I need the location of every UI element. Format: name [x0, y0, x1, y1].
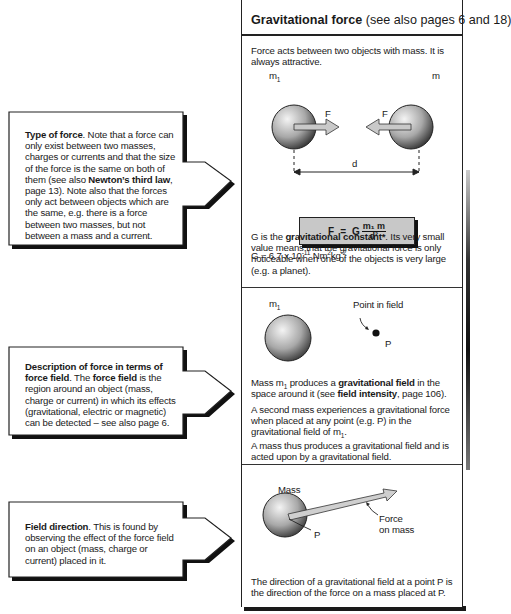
- field-para-2: A second mass experiences a gravitationa…: [251, 404, 456, 438]
- point-label: P: [314, 529, 320, 540]
- force-pointer-icon: [367, 504, 378, 515]
- field-direction-diagram: [242, 465, 464, 565]
- gravitational-constant-text: G is the gravitational constant*. Its ve…: [251, 231, 456, 276]
- mass-sphere: [265, 315, 311, 361]
- mass-2-label: m: [432, 70, 440, 81]
- force-label-right: F: [382, 108, 388, 119]
- section-field-direction: Mass P Force on mass The direction of a …: [242, 465, 462, 607]
- intro-text: Force acts between two objects with mass…: [251, 45, 456, 67]
- force-label-left: F: [325, 108, 331, 119]
- callout-term: Newton’s third law: [88, 174, 170, 185]
- mass-1-label: m1: [269, 70, 280, 81]
- field-para-1: Mass m1 produces a gravitational field i…: [251, 377, 458, 399]
- distance-label: d: [352, 158, 357, 169]
- callout-text: Description of force in terms of force f…: [25, 361, 177, 428]
- point-caption: Point in field: [353, 299, 403, 310]
- callout-heading: Type of force: [25, 129, 83, 140]
- callout-heading: Field direction: [25, 521, 88, 532]
- callout-text: Type of force. Note that a force can onl…: [25, 129, 177, 241]
- gravitational-force-panel: Gravitational force (see also pages 6 an…: [241, 0, 463, 607]
- field-point-icon: [372, 329, 379, 336]
- panel-subtitle: (see also pages 6 and 18): [362, 13, 511, 27]
- force-caption: Force on mass: [379, 513, 414, 535]
- callout-body: . The: [69, 372, 92, 383]
- callout-text: Field direction. This is found by observ…: [25, 521, 177, 566]
- mass-label: m1: [269, 298, 280, 309]
- field-direction-text: The direction of a gravitational field a…: [251, 576, 459, 598]
- formula-numerator: m₁ m: [362, 222, 386, 232]
- point-label: P: [385, 338, 391, 349]
- panel-header: Gravitational force (see also pages 6 an…: [242, 0, 462, 36]
- mass-label: Mass: [278, 484, 300, 495]
- panel-title: Gravitational force: [251, 13, 362, 27]
- page-edge-shadow: [466, 170, 470, 470]
- section-gravitational-field: m1 Point in field P Mass m1 produces a g…: [242, 288, 462, 465]
- callout-term: force field: [93, 372, 137, 383]
- field-para-3: A mass thus produces a gravitational fie…: [251, 440, 456, 462]
